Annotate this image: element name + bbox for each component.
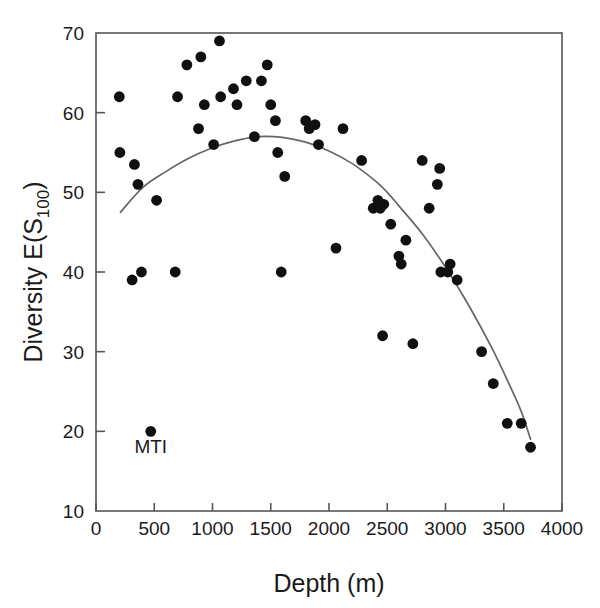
data-point xyxy=(145,426,156,437)
data-point xyxy=(262,59,273,70)
data-point xyxy=(432,179,443,190)
data-point xyxy=(516,418,527,429)
data-point xyxy=(452,275,463,286)
data-point xyxy=(310,119,321,130)
annotation-label: MTI xyxy=(134,436,167,457)
data-point xyxy=(434,163,445,174)
data-point xyxy=(476,346,487,357)
data-point xyxy=(356,155,367,166)
data-point xyxy=(313,139,324,150)
data-point xyxy=(172,91,183,102)
y-tick-label: 50 xyxy=(63,182,84,203)
data-point xyxy=(133,179,144,190)
data-point xyxy=(265,99,276,110)
data-point xyxy=(199,99,210,110)
y-tick-label: 10 xyxy=(63,501,84,522)
data-point xyxy=(151,195,162,206)
data-point xyxy=(445,259,456,270)
data-point xyxy=(424,203,435,214)
data-point xyxy=(396,259,407,270)
data-point xyxy=(407,338,418,349)
y-tick-label: 20 xyxy=(63,421,84,442)
data-points-group xyxy=(114,36,536,453)
y-axis-tick-labels: 10203040506070 xyxy=(63,23,84,522)
data-point xyxy=(215,91,226,102)
x-tick-label: 3500 xyxy=(483,518,525,539)
data-point xyxy=(488,378,499,389)
data-point xyxy=(181,59,192,70)
x-tick-label: 1000 xyxy=(191,518,233,539)
data-point xyxy=(338,123,349,134)
data-point xyxy=(400,235,411,246)
x-tick-label: 2000 xyxy=(308,518,350,539)
data-point xyxy=(170,267,181,278)
scatter-plot-figure: 05001000150020002500300035004000 1020304… xyxy=(0,0,600,608)
data-point xyxy=(276,267,287,278)
data-point xyxy=(208,139,219,150)
y-tick-label: 60 xyxy=(63,103,84,124)
data-point xyxy=(228,83,239,94)
y-tick-label: 30 xyxy=(63,342,84,363)
y-tick-label: 70 xyxy=(63,23,84,44)
data-point xyxy=(525,442,536,453)
data-point xyxy=(241,75,252,86)
data-point xyxy=(378,199,389,210)
x-tick-label: 3000 xyxy=(424,518,466,539)
annotations-group: MTI xyxy=(134,436,167,457)
data-point xyxy=(385,219,396,230)
data-point xyxy=(232,99,243,110)
data-point xyxy=(129,159,140,170)
data-point xyxy=(417,155,428,166)
data-point xyxy=(279,171,290,182)
data-point xyxy=(502,418,513,429)
y-axis-title-main: Diversity E(S100) xyxy=(19,181,53,362)
x-tick-label: 4000 xyxy=(541,518,583,539)
data-point xyxy=(136,267,147,278)
x-tick-label: 2500 xyxy=(366,518,408,539)
x-tick-label: 500 xyxy=(138,518,170,539)
data-point xyxy=(193,123,204,134)
data-point xyxy=(256,75,267,86)
data-point xyxy=(114,147,125,158)
y-axis-ticks xyxy=(96,113,105,432)
y-axis-title: Diversity E(S100) xyxy=(19,181,53,362)
data-point xyxy=(195,52,206,63)
x-axis-ticks xyxy=(96,503,562,511)
y-tick-label: 40 xyxy=(63,262,84,283)
data-point xyxy=(214,36,225,47)
x-axis-title: Depth (m) xyxy=(273,569,384,597)
data-point xyxy=(114,91,125,102)
data-point xyxy=(272,147,283,158)
fitted-curve xyxy=(120,136,530,439)
x-tick-label: 0 xyxy=(91,518,102,539)
x-axis-tick-labels: 05001000150020002500300035004000 xyxy=(91,518,583,539)
data-point xyxy=(377,330,388,341)
data-point xyxy=(127,275,138,286)
x-tick-label: 1500 xyxy=(250,518,292,539)
data-point xyxy=(249,131,260,142)
data-point xyxy=(331,243,342,254)
plot-canvas: 05001000150020002500300035004000 1020304… xyxy=(0,0,600,608)
data-point xyxy=(270,115,281,126)
